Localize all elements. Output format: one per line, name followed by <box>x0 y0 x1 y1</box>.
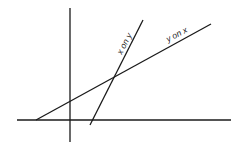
regression-diagram: x on y y on x <box>0 0 241 148</box>
y-on-x-label: y on x <box>163 24 189 44</box>
x-on-y-regression-line <box>90 20 143 125</box>
